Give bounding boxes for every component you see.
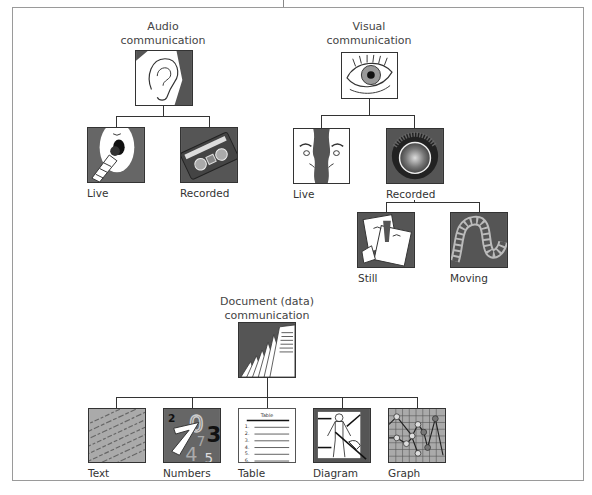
audio-connector-right bbox=[209, 116, 210, 127]
audio-communication-title: Audio communication bbox=[120, 20, 205, 48]
document-connector-stem bbox=[267, 378, 268, 397]
audio-connector-bar bbox=[116, 116, 210, 117]
visual-communication-title: Visual communication bbox=[326, 20, 411, 48]
table-row-number: 1. bbox=[245, 424, 250, 429]
page-top-mark bbox=[283, 0, 284, 7]
recorded-connector-right bbox=[479, 202, 480, 212]
audio-recorded-label: Recorded bbox=[180, 187, 229, 199]
table-row-number: 6. bbox=[245, 458, 250, 462]
svg-text:5: 5 bbox=[205, 450, 214, 462]
stacked-pages-icon bbox=[238, 322, 296, 378]
audio-live-label: Live bbox=[87, 187, 108, 199]
table-label: Table bbox=[238, 467, 265, 479]
photographs-icon bbox=[357, 212, 415, 268]
body-diagram-icon bbox=[313, 408, 371, 463]
svg-text:7: 7 bbox=[197, 433, 206, 449]
text-label: Text bbox=[88, 467, 109, 479]
graph-label: Graph bbox=[388, 467, 420, 479]
recorded-connector-left bbox=[386, 202, 387, 212]
visual-connector-stem bbox=[369, 99, 370, 115]
diagram-label: Diagram bbox=[313, 467, 358, 479]
table-row-number: 2. bbox=[245, 431, 250, 436]
moving-label: Moving bbox=[450, 272, 488, 284]
document-title-line2: communication bbox=[220, 309, 314, 323]
visual-connector-right bbox=[414, 115, 415, 128]
document-title-line1: Document (data) bbox=[220, 295, 314, 309]
document-communication-title: Document (data) communication bbox=[220, 295, 314, 323]
audio-title-line2: communication bbox=[120, 34, 205, 48]
microphone-mouth-icon bbox=[87, 127, 145, 183]
recorded-connector-bar bbox=[386, 202, 480, 203]
camera-lens-icon bbox=[386, 128, 444, 184]
svg-text:3: 3 bbox=[206, 422, 220, 447]
visual-title-line2: communication bbox=[326, 34, 411, 48]
visual-connector-left bbox=[321, 115, 322, 128]
document-connector-table bbox=[267, 397, 268, 408]
eye-icon bbox=[341, 52, 398, 99]
faces-profile-icon bbox=[293, 128, 350, 184]
visual-recorded-label: Recorded bbox=[386, 188, 435, 200]
svg-text:2: 2 bbox=[168, 412, 175, 424]
visual-connector-bar bbox=[321, 115, 415, 116]
table-row-number: 3. bbox=[245, 438, 250, 443]
visual-title-line1: Visual bbox=[326, 20, 411, 34]
document-connector-numbers bbox=[192, 397, 193, 408]
text-page-icon bbox=[88, 408, 146, 463]
ear-icon bbox=[135, 50, 193, 106]
line-graph-icon bbox=[388, 408, 446, 463]
numbers-icon: 2 0 3 7 4 5 bbox=[163, 408, 221, 463]
document-connector-text bbox=[116, 397, 117, 408]
numbers-label: Numbers bbox=[163, 467, 211, 479]
document-connector-diagram bbox=[342, 397, 343, 408]
audio-connector-left bbox=[116, 116, 117, 127]
table-row-number: 5. bbox=[245, 451, 250, 456]
audio-connector-stem bbox=[163, 106, 164, 116]
table-icon-title: Table bbox=[260, 413, 273, 418]
cassette-tape-icon bbox=[180, 127, 238, 183]
visual-live-label: Live bbox=[293, 188, 314, 200]
film-reel-icon bbox=[450, 212, 508, 268]
table-icon: Table 1. 2. 3. 4. 5. 6. bbox=[238, 408, 296, 463]
document-connector-graph bbox=[417, 397, 418, 408]
audio-title-line1: Audio bbox=[120, 20, 205, 34]
table-row-number: 4. bbox=[245, 445, 250, 450]
svg-text:4: 4 bbox=[185, 443, 197, 462]
still-label: Still bbox=[358, 272, 378, 284]
